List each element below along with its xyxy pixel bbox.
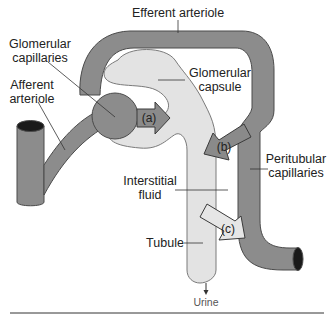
label-interstitial-fluid-1: Interstitial xyxy=(123,174,177,188)
label-tubule: Tubule xyxy=(146,236,184,250)
arrow-b-label: (b) xyxy=(217,140,232,154)
afferent-trunk-lumen xyxy=(17,121,44,132)
arrow-c-label: (c) xyxy=(221,222,235,236)
peritubular-lumen xyxy=(293,248,303,271)
arrow-a-label: (a) xyxy=(142,111,157,125)
label-peritubular-capillaries-2: capillaries xyxy=(268,166,324,180)
label-glomerular-capsule-2: capsule xyxy=(198,80,241,94)
label-peritubular-capillaries-1: Peritubular xyxy=(266,152,326,166)
label-glomerular-capillaries-1: Glomerular xyxy=(9,37,71,51)
urine-arrow-head xyxy=(204,290,209,295)
label-afferent-arteriole-2: arteriole xyxy=(9,92,54,106)
label-urine: Urine xyxy=(193,296,218,308)
afferent-trunk-vessel xyxy=(17,126,44,206)
label-glomerular-capillaries-2: capillaries xyxy=(12,51,68,65)
nephron-diagram: (a) (b) (c) Efferent arteriole Glomerula… xyxy=(0,0,331,315)
label-glomerular-capsule-1: Glomerular xyxy=(189,66,251,80)
glomerular-capillaries xyxy=(92,93,138,139)
label-efferent-arteriole: Efferent arteriole xyxy=(132,6,224,20)
label-interstitial-fluid-2: fluid xyxy=(139,188,162,202)
label-afferent-arteriole-1: Afferent xyxy=(10,78,54,92)
